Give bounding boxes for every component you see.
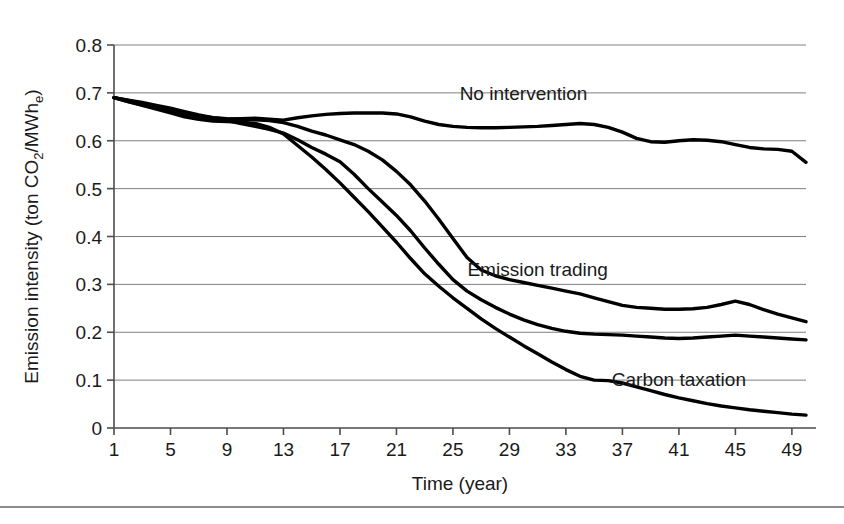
x-tick-label-7: 29 (499, 439, 520, 460)
y-tick-label-7: 0.7 (76, 83, 102, 104)
bottom-divider-rule (0, 506, 844, 508)
x-tick-label-9: 37 (612, 439, 633, 460)
x-tick-label-10: 41 (668, 439, 689, 460)
y-tick-label-3: 0.3 (76, 274, 102, 295)
y-tick-label-8: 0.8 (76, 35, 102, 56)
chart-background (0, 0, 844, 524)
x-tick-label-12: 49 (781, 439, 802, 460)
y-tick-label-1: 0.1 (76, 370, 102, 391)
figure-container: 00.10.20.30.40.50.60.70.8 15913172125293… (0, 0, 844, 524)
x-axis-title: Time (year) (412, 473, 508, 494)
y-tick-label-2: 0.2 (76, 322, 102, 343)
series-annotation-no-intervention: No intervention (460, 83, 588, 104)
x-tick-label-0: 1 (109, 439, 120, 460)
x-tick-label-1: 5 (165, 439, 176, 460)
x-tick-label-4: 17 (329, 439, 350, 460)
y-tick-label-6: 0.6 (76, 131, 102, 152)
y-tick-label-0: 0 (91, 418, 102, 439)
series-annotation-carbon-taxation: Carbon taxation (612, 369, 746, 390)
x-tick-label-2: 9 (222, 439, 233, 460)
x-tick-label-11: 45 (725, 439, 746, 460)
x-tick-label-6: 25 (442, 439, 463, 460)
y-tick-label-4: 0.4 (76, 227, 103, 248)
x-tick-label-8: 33 (555, 439, 576, 460)
y-tick-label-5: 0.5 (76, 179, 102, 200)
x-tick-label-3: 13 (273, 439, 294, 460)
x-tick-label-5: 21 (386, 439, 407, 460)
series-annotation-emission-trading: Emission trading (467, 259, 607, 280)
emission-intensity-line-chart: 00.10.20.30.40.50.60.70.8 15913172125293… (0, 0, 844, 524)
